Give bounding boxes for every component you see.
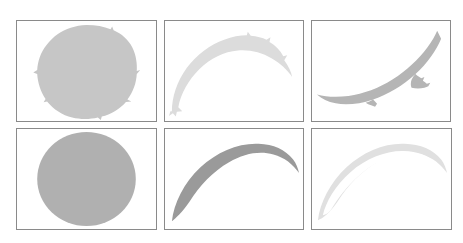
panel-5-cell (164, 128, 304, 230)
panel-3-shape (312, 21, 450, 121)
panel-4-cell (16, 128, 157, 230)
panel-2-shape (165, 21, 303, 121)
panel-1-shape (17, 21, 156, 121)
panel-5-shape (165, 129, 303, 229)
panel-2-cell (164, 20, 304, 122)
full-disc-smooth-icon (37, 132, 136, 226)
panel-1-cell (16, 20, 157, 122)
figure-grid (0, 0, 463, 243)
panel-4-shape (17, 129, 156, 229)
panel-6-shape (312, 129, 451, 229)
panel-3-cell (311, 20, 451, 122)
panel-6-cell (311, 128, 452, 230)
